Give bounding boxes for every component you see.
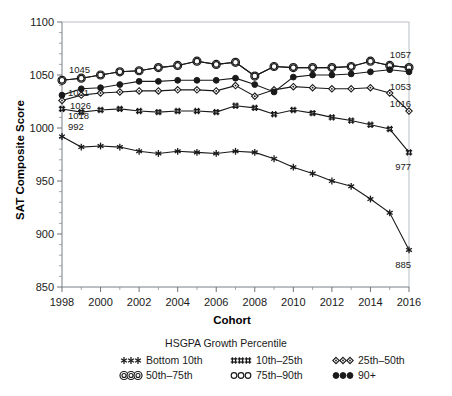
filled-circle-marker	[252, 82, 258, 88]
filled-circle-marker	[333, 373, 339, 379]
circle-marker	[194, 58, 200, 64]
x-tick-label: 2000	[88, 296, 112, 308]
diamond-marker	[408, 110, 410, 112]
x-tick-label: 2010	[281, 296, 305, 308]
filled-circle-marker	[310, 72, 316, 78]
x-tick-label: 2014	[358, 296, 382, 308]
circle-marker	[348, 64, 354, 70]
filled-circle-marker	[329, 72, 335, 78]
filled-circle-marker	[155, 78, 161, 84]
start-value-label: 1045	[69, 64, 90, 75]
filled-circle-marker	[271, 89, 277, 95]
x-tick-label: 2016	[397, 296, 421, 308]
diamond-marker	[119, 91, 121, 93]
start-value-label: 1018	[68, 110, 89, 121]
x-tick-label: 2002	[127, 296, 151, 308]
filled-circle-marker	[290, 74, 296, 80]
circle-marker	[245, 373, 251, 379]
start-value-label: 992	[68, 121, 84, 132]
chart-figure: 850900950100010501100 199820002002200420…	[0, 0, 452, 396]
diamond-marker	[342, 360, 344, 362]
x-tick-label: 2006	[204, 296, 228, 308]
diamond-marker	[196, 89, 198, 91]
x-tick-label: 2004	[165, 296, 189, 308]
filled-circle-marker	[59, 92, 65, 98]
legend-item-label: 75th–90th	[256, 369, 303, 381]
end-value-label: 885	[395, 259, 411, 270]
diamond-marker	[157, 90, 159, 92]
circle-marker	[175, 63, 181, 69]
filled-circle-marker	[136, 78, 142, 84]
diamond-marker	[177, 89, 179, 91]
filled-circle-marker	[194, 77, 200, 83]
filled-circle-marker	[98, 85, 104, 91]
filled-circle-marker	[213, 77, 219, 83]
legend-item-label: 10th–25th	[256, 354, 303, 366]
x-tick-label: 2008	[243, 296, 267, 308]
diamond-marker	[292, 86, 294, 88]
circle-marker	[231, 373, 237, 379]
end-value-label: 1053	[390, 81, 411, 92]
y-tick-label: 1100	[30, 16, 54, 28]
circle-marker	[238, 373, 244, 379]
legend-item-label: Bottom 10th	[146, 354, 203, 366]
circle-marker	[117, 69, 123, 75]
sat-composite-score-line-chart: 850900950100010501100 199820002002200420…	[0, 0, 452, 396]
diamond-marker	[215, 90, 217, 92]
circle-marker	[271, 64, 277, 70]
y-axis-title: SAT Composite Score	[14, 100, 26, 220]
circle-marker	[136, 68, 142, 74]
double-circle-marker	[136, 374, 140, 378]
double-circle-marker	[129, 374, 133, 378]
filled-circle-marker	[340, 373, 346, 379]
diamond-marker	[138, 90, 140, 92]
end-value-label: 1016	[390, 98, 411, 109]
y-tick-label: 900	[36, 228, 54, 240]
filled-circle-marker	[348, 71, 354, 77]
legend-title: HSGPA Growth Percentile	[165, 337, 287, 349]
filled-circle-marker	[175, 77, 181, 83]
filled-circle-marker	[347, 373, 353, 379]
circle-marker	[156, 65, 162, 71]
filled-circle-marker	[117, 82, 123, 88]
circle-marker	[78, 75, 84, 81]
circle-marker	[291, 65, 297, 71]
circle-marker	[213, 62, 219, 68]
filled-circle-marker	[233, 75, 239, 81]
start-value-label: 1026	[70, 100, 91, 111]
filled-circle-marker	[387, 67, 393, 73]
legend-item-label: 25th–50th	[358, 354, 405, 366]
diamond-marker	[370, 87, 372, 89]
diamond-marker	[312, 87, 314, 89]
diamond-marker	[331, 88, 333, 90]
circle-marker	[329, 65, 335, 71]
x-axis-title: Cohort	[213, 314, 251, 326]
diamond-marker	[350, 88, 352, 90]
circle-marker	[252, 73, 258, 79]
end-value-label: 977	[395, 161, 411, 172]
filled-circle-marker	[368, 69, 374, 75]
diamond-marker	[100, 92, 102, 94]
diamond-marker	[254, 95, 256, 97]
double-circle-marker	[122, 374, 126, 378]
y-tick-label: 950	[36, 175, 54, 187]
diamond-marker	[389, 92, 391, 94]
filled-circle-marker	[406, 69, 412, 75]
legend-item-label: 90+	[358, 369, 376, 381]
diamond-marker	[235, 85, 237, 87]
circle-marker	[368, 58, 374, 64]
legend-item-label: 50th–75th	[146, 369, 193, 381]
circle-marker	[59, 78, 65, 84]
circle-marker	[98, 72, 104, 78]
y-tick-label: 850	[36, 281, 54, 293]
circle-marker	[310, 65, 316, 71]
diamond-marker	[349, 360, 351, 362]
circle-marker	[233, 59, 239, 65]
end-value-label: 1057	[390, 49, 411, 60]
start-value-label: 1031	[68, 87, 89, 98]
y-tick-label: 1050	[30, 69, 54, 81]
x-tick-label: 1998	[50, 296, 74, 308]
y-tick-label: 1000	[30, 122, 54, 134]
diamond-marker	[61, 100, 63, 102]
x-tick-label: 2012	[320, 296, 344, 308]
